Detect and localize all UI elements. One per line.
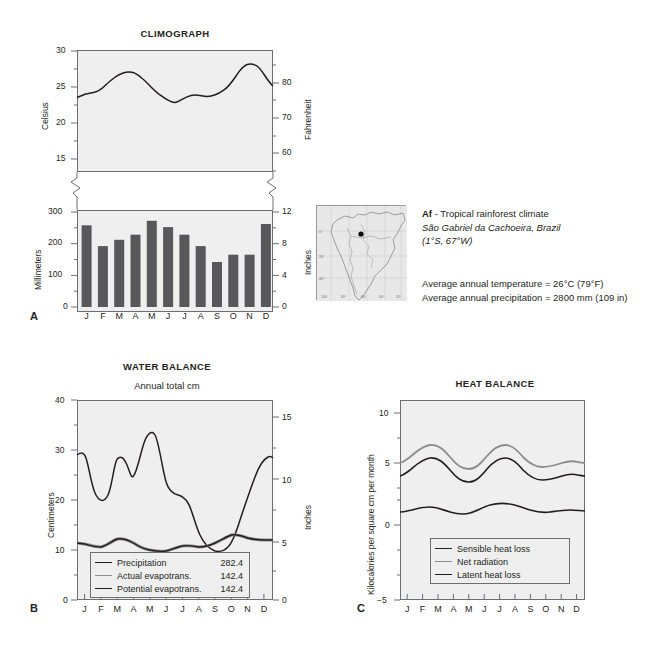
month-label: M xyxy=(145,311,159,321)
legend-swatch-latent-heat-loss xyxy=(435,574,452,575)
month-label: N xyxy=(554,604,568,614)
month-label: N xyxy=(243,311,257,321)
month-label: O xyxy=(226,311,240,321)
month-label: D xyxy=(257,604,271,614)
map-lon-label: 80° xyxy=(341,295,347,299)
month-label: J xyxy=(477,604,491,614)
legend-row-potential-evapotrans: Potential evapotrans. 142.4 xyxy=(91,582,249,595)
bar-J3 xyxy=(179,235,189,307)
legend-row-net-radiation: Net radiation xyxy=(431,555,569,568)
legend-label-actual-evapotrans: Actual evapotrans. xyxy=(117,571,192,581)
heat-balance-legend: Sensible heat loss Net radiation Latent … xyxy=(430,538,570,584)
net-radiation-curve xyxy=(400,445,585,469)
caption-block: Af - Tropical rainforest climate São Gab… xyxy=(422,207,652,248)
heat-balance-panel: HEAT BALANCE 10 5 0 −5 Kilocalories per … xyxy=(330,355,656,656)
month-label: A xyxy=(194,311,208,321)
map-lon-label: 100° xyxy=(321,295,329,299)
month-label: O xyxy=(539,604,553,614)
map-lon-label: 40° xyxy=(379,295,385,299)
month-label: J xyxy=(78,604,92,614)
caption-stats: Average annual temperature = 26°C (79°F)… xyxy=(422,277,652,304)
legend-label-net-radiation: Net radiation xyxy=(457,557,508,567)
latent-heat-loss-curve xyxy=(400,458,585,482)
month-label: S xyxy=(210,311,224,321)
legend-swatch-precipitation xyxy=(95,562,112,563)
legend-value-precipitation: 282.4 xyxy=(220,558,249,568)
map-lat-label: 40° xyxy=(319,277,325,281)
legend-swatch-actual-evapotrans xyxy=(95,575,112,576)
bar-D xyxy=(261,224,271,307)
precipitation-curve xyxy=(77,432,273,551)
precipitation-bar-group xyxy=(82,221,271,307)
month-label: A xyxy=(127,604,141,614)
sensible-heat-loss-curve xyxy=(400,503,585,514)
month-label: M xyxy=(462,604,476,614)
month-label: O xyxy=(224,604,238,614)
legend-label-potential-evapotrans: Potential evapotrans. xyxy=(117,584,202,594)
month-label: N xyxy=(241,604,255,614)
month-label: D xyxy=(570,604,584,614)
bar-F xyxy=(98,246,108,307)
bar-M2 xyxy=(147,221,157,307)
legend-label-latent-heat-loss: Latent heat loss xyxy=(457,570,521,580)
month-label: J xyxy=(400,604,414,614)
month-label: A xyxy=(446,604,460,614)
bar-J xyxy=(82,225,92,307)
water-balance-panel: WATER BALANCE Annual total cm 40 30 20 1… xyxy=(0,355,330,656)
month-label: F xyxy=(96,311,110,321)
panel-letter-b: B xyxy=(30,602,38,614)
month-label: J xyxy=(80,311,94,321)
legend-label-sensible-heat-loss: Sensible heat loss xyxy=(457,544,530,554)
locator-map: 0° 20° 40° 100° 80° 60° 40° 20° xyxy=(316,205,406,300)
legend-value-actual-evapotrans: 142.4 xyxy=(220,571,249,581)
bar-A xyxy=(131,235,141,307)
legend-value-potential-evapotrans: 142.4 xyxy=(220,584,249,594)
month-label: J xyxy=(175,604,189,614)
legend-row-actual-evapotrans: Actual evapotrans. 142.4 xyxy=(91,569,249,582)
map-lat-label: 20° xyxy=(319,255,325,259)
bar-M xyxy=(114,240,124,307)
south-america-map-svg: 0° 20° 40° 100° 80° 60° 40° 20° xyxy=(317,206,407,301)
month-label: F xyxy=(94,604,108,614)
month-label: M xyxy=(431,604,445,614)
month-label: A xyxy=(129,311,143,321)
precipitation-bars-svg xyxy=(0,0,330,340)
climate-code: Af xyxy=(422,208,432,219)
station-marker xyxy=(358,231,363,236)
month-label: A xyxy=(192,604,206,614)
bar-S xyxy=(212,262,222,307)
bar-O xyxy=(228,255,238,307)
legend-swatch-potential-evapotrans xyxy=(95,588,112,589)
station-coordinates: (1°S, 67°W) xyxy=(422,235,472,246)
month-label: J xyxy=(159,604,173,614)
legend-row-sensible-heat-loss: Sensible heat loss xyxy=(431,542,569,555)
bar-N xyxy=(245,255,255,307)
climate-type: Tropical rainforest climate xyxy=(440,208,548,219)
bar-J2 xyxy=(163,227,173,307)
month-label: S xyxy=(208,604,222,614)
month-label: J xyxy=(177,311,191,321)
month-label: J xyxy=(493,604,507,614)
legend-label-precipitation: Precipitation xyxy=(117,558,167,568)
map-lon-label: 60° xyxy=(361,295,367,299)
legend-row-latent-heat-loss: Latent heat loss xyxy=(431,568,569,581)
climograph-panel: CLIMOGRAPH 30 25 20 15 80 70 60 300 200 … xyxy=(0,0,330,340)
panel-letter-c: C xyxy=(357,602,365,614)
legend-row-precipitation: Precipitation 282.4 xyxy=(91,556,249,569)
panel-letter-a: A xyxy=(30,310,38,322)
map-lon-label: 20° xyxy=(396,295,402,299)
average-precipitation: Average annual precipitation = 2800 mm (… xyxy=(422,291,652,305)
climate-code-line: Af - Tropical rainforest climate xyxy=(422,207,652,221)
legend-swatch-sensible-heat-loss xyxy=(435,548,452,549)
station-name: São Gabriel da Cachoeira, Brazil xyxy=(422,222,560,233)
month-label: M xyxy=(143,604,157,614)
average-temperature: Average annual temperature = 26°C (79°F) xyxy=(422,277,652,291)
month-label: S xyxy=(523,604,537,614)
month-label: M xyxy=(112,311,126,321)
month-label: D xyxy=(259,311,273,321)
water-balance-legend: Precipitation 282.4 Actual evapotrans. 1… xyxy=(90,552,250,598)
month-label: J xyxy=(161,311,175,321)
bar-A2 xyxy=(196,246,206,307)
legend-swatch-net-radiation xyxy=(435,561,452,562)
month-label: M xyxy=(110,604,124,614)
